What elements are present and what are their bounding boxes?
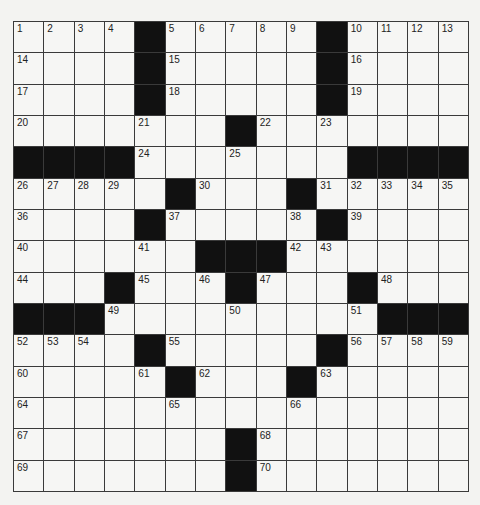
answer-cell[interactable] xyxy=(408,367,437,397)
answer-cell[interactable]: 5 xyxy=(166,22,195,52)
answer-cell[interactable] xyxy=(135,429,164,459)
answer-cell[interactable] xyxy=(166,273,195,303)
answer-cell[interactable]: 32 xyxy=(348,179,377,209)
answer-cell[interactable] xyxy=(44,241,73,271)
answer-cell[interactable] xyxy=(317,398,346,428)
answer-cell[interactable] xyxy=(317,461,346,491)
answer-cell[interactable]: 9 xyxy=(287,22,316,52)
answer-cell[interactable] xyxy=(166,461,195,491)
answer-cell[interactable]: 53 xyxy=(44,335,73,365)
answer-cell[interactable]: 68 xyxy=(257,429,286,459)
answer-cell[interactable] xyxy=(287,147,316,177)
answer-cell[interactable]: 64 xyxy=(14,398,43,428)
answer-cell[interactable] xyxy=(287,273,316,303)
answer-cell[interactable] xyxy=(287,53,316,83)
answer-cell[interactable] xyxy=(287,335,316,365)
answer-cell[interactable]: 54 xyxy=(75,335,104,365)
answer-cell[interactable]: 15 xyxy=(166,53,195,83)
answer-cell[interactable] xyxy=(226,335,255,365)
answer-cell[interactable] xyxy=(44,210,73,240)
answer-cell[interactable] xyxy=(408,398,437,428)
answer-cell[interactable] xyxy=(166,304,195,334)
answer-cell[interactable]: 18 xyxy=(166,85,195,115)
answer-cell[interactable]: 56 xyxy=(348,335,377,365)
answer-cell[interactable] xyxy=(408,85,437,115)
answer-cell[interactable] xyxy=(135,398,164,428)
answer-cell[interactable] xyxy=(75,241,104,271)
answer-cell[interactable]: 50 xyxy=(226,304,255,334)
answer-cell[interactable] xyxy=(287,85,316,115)
answer-cell[interactable] xyxy=(257,335,286,365)
answer-cell[interactable]: 34 xyxy=(408,179,437,209)
answer-cell[interactable]: 47 xyxy=(257,273,286,303)
answer-cell[interactable] xyxy=(135,304,164,334)
answer-cell[interactable] xyxy=(166,116,195,146)
answer-cell[interactable]: 2 xyxy=(44,22,73,52)
answer-cell[interactable] xyxy=(75,461,104,491)
answer-cell[interactable]: 37 xyxy=(166,210,195,240)
answer-cell[interactable] xyxy=(105,241,134,271)
answer-cell[interactable]: 45 xyxy=(135,273,164,303)
answer-cell[interactable]: 66 xyxy=(287,398,316,428)
answer-cell[interactable] xyxy=(166,147,195,177)
answer-cell[interactable] xyxy=(257,367,286,397)
answer-cell[interactable]: 41 xyxy=(135,241,164,271)
answer-cell[interactable]: 26 xyxy=(14,179,43,209)
answer-cell[interactable]: 30 xyxy=(196,179,225,209)
answer-cell[interactable]: 60 xyxy=(14,367,43,397)
answer-cell[interactable] xyxy=(196,147,225,177)
answer-cell[interactable]: 25 xyxy=(226,147,255,177)
answer-cell[interactable]: 1 xyxy=(14,22,43,52)
answer-cell[interactable]: 42 xyxy=(287,241,316,271)
answer-cell[interactable]: 8 xyxy=(257,22,286,52)
answer-cell[interactable] xyxy=(317,273,346,303)
answer-cell[interactable] xyxy=(105,367,134,397)
answer-cell[interactable] xyxy=(378,53,407,83)
answer-cell[interactable] xyxy=(75,367,104,397)
answer-cell[interactable] xyxy=(44,429,73,459)
answer-cell[interactable] xyxy=(44,273,73,303)
answer-cell[interactable] xyxy=(439,53,468,83)
answer-cell[interactable] xyxy=(287,116,316,146)
answer-cell[interactable] xyxy=(44,398,73,428)
answer-cell[interactable] xyxy=(439,367,468,397)
answer-cell[interactable]: 31 xyxy=(317,179,346,209)
answer-cell[interactable] xyxy=(408,273,437,303)
answer-cell[interactable] xyxy=(135,461,164,491)
answer-cell[interactable] xyxy=(44,367,73,397)
answer-cell[interactable] xyxy=(408,429,437,459)
answer-cell[interactable] xyxy=(226,85,255,115)
answer-cell[interactable] xyxy=(317,147,346,177)
answer-cell[interactable] xyxy=(75,53,104,83)
answer-cell[interactable] xyxy=(408,461,437,491)
answer-cell[interactable] xyxy=(257,398,286,428)
answer-cell[interactable]: 63 xyxy=(317,367,346,397)
answer-cell[interactable]: 33 xyxy=(378,179,407,209)
answer-cell[interactable]: 52 xyxy=(14,335,43,365)
answer-cell[interactable] xyxy=(196,398,225,428)
answer-cell[interactable] xyxy=(44,85,73,115)
answer-cell[interactable] xyxy=(287,461,316,491)
answer-cell[interactable] xyxy=(348,367,377,397)
answer-cell[interactable] xyxy=(105,335,134,365)
answer-cell[interactable] xyxy=(439,273,468,303)
answer-cell[interactable] xyxy=(257,304,286,334)
answer-cell[interactable] xyxy=(196,461,225,491)
answer-cell[interactable]: 17 xyxy=(14,85,43,115)
answer-cell[interactable] xyxy=(135,179,164,209)
answer-cell[interactable] xyxy=(75,116,104,146)
answer-cell[interactable] xyxy=(75,273,104,303)
answer-cell[interactable]: 4 xyxy=(105,22,134,52)
answer-cell[interactable] xyxy=(44,461,73,491)
answer-cell[interactable]: 22 xyxy=(257,116,286,146)
answer-cell[interactable] xyxy=(166,241,195,271)
answer-cell[interactable]: 21 xyxy=(135,116,164,146)
answer-cell[interactable]: 39 xyxy=(348,210,377,240)
answer-cell[interactable] xyxy=(105,461,134,491)
answer-cell[interactable] xyxy=(105,429,134,459)
answer-cell[interactable]: 36 xyxy=(14,210,43,240)
answer-cell[interactable] xyxy=(196,53,225,83)
answer-cell[interactable] xyxy=(408,241,437,271)
answer-cell[interactable] xyxy=(348,116,377,146)
answer-cell[interactable] xyxy=(378,116,407,146)
